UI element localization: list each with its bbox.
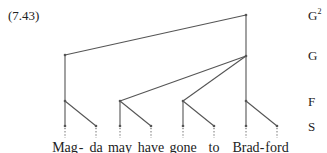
tree-node [245, 100, 248, 103]
syllable-to: to [209, 140, 220, 153]
tree-node [182, 100, 185, 103]
syllable-da: da [89, 140, 102, 153]
hyphen: - [260, 140, 265, 153]
syllable-gone: gone [169, 140, 196, 153]
tree-branch [183, 56, 246, 101]
tree-branch [120, 101, 151, 126]
tree-node [95, 125, 98, 128]
tree-node [182, 125, 185, 128]
hyphen: - [79, 140, 84, 153]
tree-branch [65, 15, 246, 55]
tree-node [119, 125, 122, 128]
tree-node [213, 125, 216, 128]
tree-branch [120, 56, 246, 101]
tree-node [64, 125, 67, 128]
tree-node [64, 100, 67, 103]
tree-node [245, 14, 248, 17]
tree-node [245, 125, 248, 128]
syllable-mag: Mag [52, 140, 78, 153]
tree-node [276, 125, 279, 128]
tree-node [245, 55, 248, 58]
tree-node [119, 100, 122, 103]
syllable-have: have [138, 140, 164, 153]
syllable-may: may [108, 140, 132, 153]
metrical-tree [0, 0, 327, 153]
tree-branch [65, 101, 96, 126]
tree-node [150, 125, 153, 128]
tree-branch [246, 101, 277, 126]
tree-node [64, 54, 67, 57]
tree-branch [183, 101, 214, 126]
syllable-ford: ford [265, 140, 288, 153]
syllable-brad: Brad [232, 140, 259, 153]
